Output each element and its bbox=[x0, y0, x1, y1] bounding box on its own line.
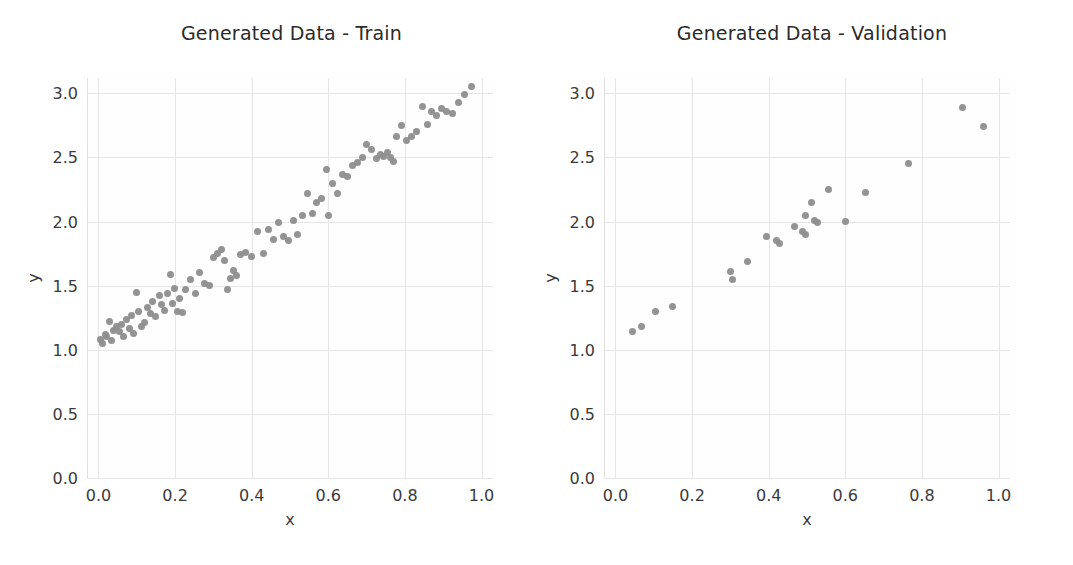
scatter-point bbox=[182, 286, 189, 293]
x-tick-label: 0.8 bbox=[392, 486, 417, 505]
scatter-point bbox=[959, 104, 966, 111]
scatter-point bbox=[398, 122, 405, 129]
y-tick-label: 1.0 bbox=[570, 340, 595, 359]
scatter-point bbox=[149, 298, 156, 305]
y-tick-label: 1.0 bbox=[53, 340, 78, 359]
gridline-vertical bbox=[692, 78, 693, 478]
scatter-point bbox=[133, 289, 140, 296]
y-tick-label: 1.5 bbox=[53, 276, 78, 295]
y-tick-label: 0.0 bbox=[570, 469, 595, 488]
scatter-point bbox=[419, 103, 426, 110]
scatter-point bbox=[862, 189, 869, 196]
x-tick-label: 0.8 bbox=[909, 486, 934, 505]
gridline-horizontal bbox=[87, 478, 493, 479]
axis-spine-left bbox=[604, 78, 605, 478]
plot-area-validation: y x 0.00.51.01.52.02.53.00.00.20.40.60.8… bbox=[604, 78, 1010, 478]
scatter-point bbox=[980, 123, 987, 130]
gridline-horizontal bbox=[604, 286, 1010, 287]
gridline-vertical bbox=[845, 78, 846, 478]
scatter-point bbox=[318, 195, 325, 202]
x-tick-label: 0.4 bbox=[756, 486, 781, 505]
y-tick-label: 2.0 bbox=[53, 212, 78, 231]
scatter-point bbox=[130, 330, 137, 337]
scatter-point bbox=[169, 300, 176, 307]
scatter-point bbox=[108, 337, 115, 344]
scatter-point bbox=[164, 290, 171, 297]
x-tick-label: 0.0 bbox=[603, 486, 628, 505]
y-tick-label: 3.0 bbox=[570, 84, 595, 103]
scatter-point bbox=[344, 173, 351, 180]
scatter-point bbox=[433, 112, 440, 119]
gridline-horizontal bbox=[604, 157, 1010, 158]
scatter-point bbox=[393, 133, 400, 140]
scatter-point bbox=[905, 160, 912, 167]
scatter-point bbox=[254, 228, 261, 235]
scatter-point bbox=[304, 190, 311, 197]
gridline-horizontal bbox=[87, 93, 493, 94]
gridline-vertical bbox=[328, 78, 329, 478]
scatter-point bbox=[99, 340, 106, 347]
x-tick-label: 0.2 bbox=[679, 486, 704, 505]
scatter-point bbox=[156, 292, 163, 299]
scatter-point bbox=[233, 272, 240, 279]
y-tick-label: 0.0 bbox=[53, 469, 78, 488]
scatter-point bbox=[196, 269, 203, 276]
scatter-point bbox=[729, 276, 736, 283]
scatter-point bbox=[161, 307, 168, 314]
x-tick-label: 0.4 bbox=[239, 486, 264, 505]
scatter-point bbox=[802, 212, 809, 219]
scatter-point bbox=[629, 328, 636, 335]
scatter-point bbox=[669, 303, 676, 310]
scatter-point bbox=[814, 219, 821, 226]
scatter-point bbox=[176, 295, 183, 302]
scatter-point bbox=[802, 231, 809, 238]
x-tick-label: 0.6 bbox=[316, 486, 341, 505]
y-tick-label: 0.5 bbox=[53, 404, 78, 423]
y-tick-label: 2.5 bbox=[53, 148, 78, 167]
scatter-point bbox=[218, 246, 225, 253]
y-tick-label: 0.5 bbox=[570, 404, 595, 423]
y-axis-label-train: y bbox=[24, 273, 43, 282]
gridline-vertical bbox=[175, 78, 176, 478]
scatter-point bbox=[248, 253, 255, 260]
scatter-point bbox=[359, 154, 366, 161]
x-axis-label-train: x bbox=[285, 510, 294, 529]
scatter-point bbox=[275, 219, 282, 226]
plot-area-train: y x 0.00.51.01.52.02.53.00.00.20.40.60.8… bbox=[87, 78, 493, 478]
scatter-point bbox=[791, 223, 798, 230]
scatter-point bbox=[171, 285, 178, 292]
scatter-point bbox=[424, 121, 431, 128]
gridline-vertical bbox=[98, 78, 99, 478]
x-tick-label: 1.0 bbox=[986, 486, 1011, 505]
panel-train: Generated Data - Train y x 0.00.51.01.52… bbox=[0, 0, 533, 565]
y-tick-label: 2.5 bbox=[570, 148, 595, 167]
gridline-vertical bbox=[999, 78, 1000, 478]
scatter-point bbox=[290, 217, 297, 224]
scatter-point bbox=[413, 128, 420, 135]
scatter-point bbox=[206, 282, 213, 289]
scatter-point bbox=[449, 110, 456, 117]
y-axis-label-validation: y bbox=[541, 273, 560, 282]
gridline-horizontal bbox=[604, 414, 1010, 415]
gridline-horizontal bbox=[87, 157, 493, 158]
scatter-point bbox=[744, 258, 751, 265]
scatter-point bbox=[294, 231, 301, 238]
scatter-point bbox=[224, 286, 231, 293]
scatter-point bbox=[325, 212, 332, 219]
gridline-horizontal bbox=[87, 414, 493, 415]
gridline-vertical bbox=[615, 78, 616, 478]
scatter-point bbox=[260, 250, 267, 257]
panel-title-train: Generated Data - Train bbox=[0, 22, 533, 44]
y-tick-label: 2.0 bbox=[570, 212, 595, 231]
panel-title-validation: Generated Data - Validation bbox=[533, 22, 1073, 44]
scatter-point bbox=[652, 308, 659, 315]
y-tick-label: 3.0 bbox=[53, 84, 78, 103]
scatter-point bbox=[727, 268, 734, 275]
scatter-point bbox=[285, 237, 292, 244]
scatter-point bbox=[221, 257, 228, 264]
scatter-point bbox=[323, 166, 330, 173]
gridline-vertical bbox=[252, 78, 253, 478]
x-tick-label: 0.6 bbox=[833, 486, 858, 505]
gridline-vertical bbox=[482, 78, 483, 478]
scatter-point bbox=[167, 271, 174, 278]
